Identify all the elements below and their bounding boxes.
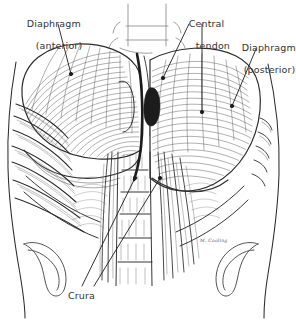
label-diaphragm-posterior-line2: (posterior) (242, 64, 296, 75)
label-central-tendon-line2: tendon (189, 40, 230, 51)
figure-diaphragm: Diaphragm (anterior) Central tendon Diap… (0, 0, 296, 321)
label-central-tendon-line1: Central (189, 18, 225, 29)
label-diaphragm-posterior-line1: Diaphragm (242, 42, 296, 53)
label-diaphragm-anterior-line1: Diaphragm (27, 18, 81, 29)
label-diaphragm-anterior: Diaphragm (anterior) (14, 7, 82, 62)
label-crura: Crura (68, 290, 95, 301)
iliac-crest-left (24, 243, 66, 297)
lumbar-vertebrae (109, 4, 185, 53)
artist-signature: M. Cooling (200, 238, 228, 243)
iliac-crest-right (216, 243, 258, 297)
label-diaphragm-posterior: Diaphragm (posterior) (229, 31, 296, 86)
label-central-tendon: Central tendon (176, 7, 230, 62)
label-diaphragm-anterior-line2: (anterior) (27, 40, 83, 51)
